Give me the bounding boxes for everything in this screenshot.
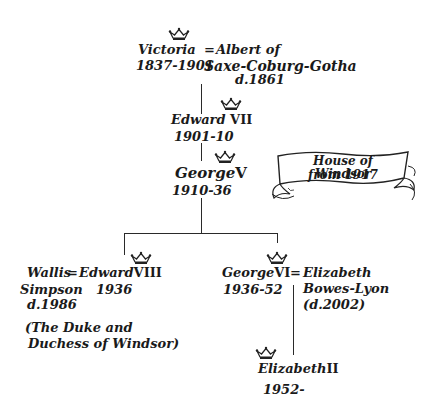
elizabeth2-name: ElizabethII (258, 362, 339, 376)
victoria-dates: 1837-1901 (136, 59, 214, 73)
albert-name-line1: Albert of (216, 43, 280, 57)
wallis-name-line1: Wallis (27, 266, 71, 280)
george5-name-text: George (175, 164, 235, 182)
marriage-symbol: = (290, 266, 301, 280)
crown-icon (220, 97, 242, 111)
crown-icon (266, 251, 288, 265)
descent-line (277, 233, 278, 243)
edward8-numeral: VIII (134, 265, 162, 280)
george5-dates: 1910-36 (172, 184, 232, 198)
banner-line2: from 1917 (288, 169, 398, 182)
crown-icon (255, 346, 277, 360)
albert-name-line2: Saxe-Coburg-Gotha (204, 59, 357, 73)
edward7-name: Edward VII (171, 113, 252, 127)
descent-line (201, 198, 202, 234)
elizabeth-bl-dates: (d.2002) (303, 298, 365, 312)
george5-name: GeorgeV (175, 166, 247, 180)
windsor-note-line2: Duchess of Windsor) (28, 337, 179, 351)
george6-name-text: George (222, 265, 274, 280)
crown-icon (214, 150, 236, 164)
edward8-name: EdwardVIII (79, 266, 162, 280)
wallis-dates: d.1986 (27, 298, 77, 312)
victoria-name: Victoria (138, 43, 196, 57)
descent-line (201, 143, 202, 161)
marriage-symbol: = (67, 266, 78, 280)
george5-numeral: V (235, 164, 247, 182)
elizabeth-bl-name-line1: Elizabeth (303, 266, 371, 280)
descent-line (201, 84, 202, 114)
edward7-numeral: VII (230, 112, 252, 127)
crown-icon (130, 251, 152, 265)
george6-dates: 1936-52 (223, 283, 283, 297)
descent-line (293, 285, 294, 355)
albert-dates: d.1861 (235, 73, 285, 87)
elizabeth2-numeral: II (326, 361, 338, 376)
elizabeth2-dates: 1952- (263, 383, 305, 397)
george6-numeral: VI (274, 265, 290, 280)
elizabeth2-name-text: Elizabeth (258, 361, 326, 376)
descent-line (124, 233, 125, 255)
edward8-dates: 1936 (96, 283, 132, 297)
wallis-name-line2: Simpson (20, 283, 83, 297)
edward7-dates: 1901-10 (174, 130, 234, 144)
sibling-line (124, 233, 278, 234)
crown-icon (168, 27, 190, 41)
marriage-symbol: = (204, 43, 215, 57)
edward8-name-text: Edward (79, 265, 134, 280)
edward7-name-text: Edward (171, 112, 226, 127)
windsor-note-line1: (The Duke and (25, 321, 133, 335)
elizabeth-bl-name-line2: Bowes-Lyon (303, 282, 389, 296)
george6-name: GeorgeVI (222, 266, 290, 280)
